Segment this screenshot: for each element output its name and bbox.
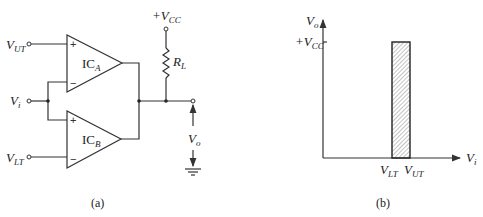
rl-label: RL: [172, 54, 186, 71]
vi-label: Vi: [10, 93, 21, 110]
caption-b: (b): [376, 196, 390, 210]
window-comparator-figure: VUT Vi VLT + − ICA + −: [0, 0, 483, 217]
ground-icon: [185, 169, 201, 175]
minus-input-sign: −: [70, 153, 76, 165]
x-axis-label: Vi: [466, 150, 477, 167]
junction-dot: [137, 99, 141, 103]
plus-input-sign: +: [70, 38, 76, 50]
vcc-tick-label: +VCC: [295, 34, 325, 51]
vcc-terminal: [164, 27, 168, 31]
vut-tick-label: VUT: [404, 162, 424, 179]
vi-terminal: [27, 99, 31, 103]
vut-label: VUT: [6, 37, 26, 54]
vlt-label: VLT: [6, 150, 25, 167]
resistor-icon: [163, 48, 169, 78]
vo-label: Vo: [188, 131, 201, 148]
output-high-region: [392, 42, 410, 158]
circuit-diagram: VUT Vi VLT + − ICA + −: [6, 8, 201, 210]
opamp-ic-a: + − ICA: [67, 35, 122, 92]
vut-terminal: [27, 42, 31, 46]
y-axis-label: Vo: [306, 13, 319, 30]
junction-dot: [46, 99, 50, 103]
caption-a: (a): [91, 196, 104, 210]
plus-input-sign: +: [70, 114, 76, 126]
transfer-characteristic-graph: Vo Vi +VCC VLT VUT (b): [295, 13, 477, 210]
vut-input: VUT: [6, 37, 67, 54]
opamp-ic-b: + − ICB: [67, 111, 121, 168]
vcc-label: +VCC: [152, 8, 182, 25]
vlt-terminal: [27, 155, 31, 159]
output-vo: Vo: [185, 99, 201, 175]
vi-input: Vi: [10, 82, 67, 120]
pullup-resistor: +VCC RL: [152, 8, 186, 101]
vlt-input: VLT: [6, 150, 67, 167]
minus-input-sign: −: [70, 77, 76, 89]
vlt-tick-label: VLT: [380, 162, 399, 179]
output-terminal: [191, 99, 195, 103]
